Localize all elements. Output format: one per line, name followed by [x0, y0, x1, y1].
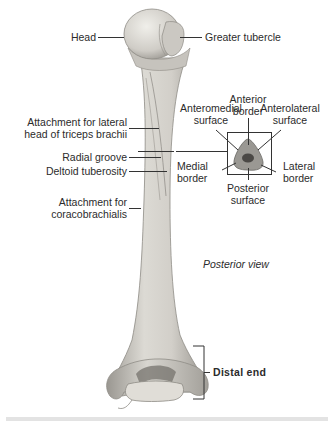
label-distal-end: Distal end	[213, 366, 266, 378]
label-attach-triceps-2: head of triceps brachii	[6, 128, 127, 140]
label-medial-border-2: border	[177, 172, 207, 184]
label-posterior-surface-1: Posterior	[218, 182, 278, 194]
leader-deltoid-tuberosity	[129, 171, 167, 172]
label-head: Head	[40, 31, 96, 43]
label-greater-tubercle: Greater tubercle	[205, 31, 281, 43]
trochlea	[125, 381, 183, 402]
label-medial-border-1: Medial	[177, 160, 208, 172]
label-lateral-border-2: border	[283, 172, 313, 184]
leader-greater-tubercle	[180, 37, 202, 38]
footer-strip	[6, 417, 328, 421]
label-attach-coraco-2: coracobrachialis	[6, 208, 127, 220]
label-anteromedial-1: Anteromedial	[174, 102, 248, 114]
label-posterior-surface-2: surface	[218, 194, 278, 206]
label-anterolateral-2: surface	[250, 114, 330, 126]
label-deltoid-tuberosity: Deltoid tuberosity	[6, 165, 127, 177]
label-attach-coraco-1: Attachment for	[6, 196, 127, 208]
label-anterolateral-1: Anterolateral	[250, 102, 330, 114]
greater-tubercle	[162, 22, 184, 57]
leader-attach-coraco	[129, 208, 141, 209]
label-attach-triceps-1: Attachment for lateral	[6, 116, 127, 128]
leader-radial-groove	[129, 157, 161, 158]
leader-head	[98, 37, 124, 38]
leader-attach-triceps	[129, 128, 159, 129]
medullary-cavity	[242, 154, 254, 163]
label-anteromedial-2: surface	[174, 114, 248, 126]
label-radial-groove: Radial groove	[6, 151, 127, 163]
view-label: Posterior view	[203, 258, 269, 270]
label-lateral-border-1: Lateral	[283, 160, 315, 172]
